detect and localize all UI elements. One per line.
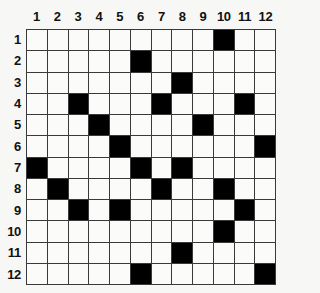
grid-cell-empty[interactable] <box>152 115 172 135</box>
grid-cell-empty[interactable] <box>89 158 109 178</box>
grid-cell-empty[interactable] <box>152 51 172 71</box>
grid-cell-filled[interactable] <box>214 179 234 199</box>
grid-cell-empty[interactable] <box>131 221 151 241</box>
grid-cell-empty[interactable] <box>131 94 151 114</box>
grid-cell-empty[interactable] <box>235 221 255 241</box>
grid-cell-empty[interactable] <box>89 136 109 156</box>
grid-cell-empty[interactable] <box>193 200 213 220</box>
grid-cell-empty[interactable] <box>172 30 192 50</box>
grid-cell-empty[interactable] <box>69 136 89 156</box>
grid-cell-empty[interactable] <box>214 264 234 284</box>
grid-cell-empty[interactable] <box>48 264 68 284</box>
grid-cell-empty[interactable] <box>172 51 192 71</box>
grid-cell-empty[interactable] <box>255 221 275 241</box>
grid-cell-empty[interactable] <box>110 179 130 199</box>
grid-cell-empty[interactable] <box>89 243 109 263</box>
grid-cell-empty[interactable] <box>172 115 192 135</box>
grid-cell-empty[interactable] <box>48 115 68 135</box>
grid-cell-empty[interactable] <box>69 51 89 71</box>
grid-cell-empty[interactable] <box>255 94 275 114</box>
grid-cell-empty[interactable] <box>48 221 68 241</box>
grid-cell-empty[interactable] <box>69 221 89 241</box>
grid-cell-empty[interactable] <box>27 221 47 241</box>
grid-cell-empty[interactable] <box>235 115 255 135</box>
grid-cell-empty[interactable] <box>214 51 234 71</box>
grid-cell-empty[interactable] <box>131 200 151 220</box>
grid-cell-filled[interactable] <box>131 264 151 284</box>
grid-cell-empty[interactable] <box>27 30 47 50</box>
grid-cell-empty[interactable] <box>48 51 68 71</box>
grid-cell-empty[interactable] <box>69 73 89 93</box>
grid-cell-empty[interactable] <box>110 94 130 114</box>
grid-cell-empty[interactable] <box>48 158 68 178</box>
grid-cell-empty[interactable] <box>152 200 172 220</box>
grid-cell-empty[interactable] <box>172 94 192 114</box>
grid-cell-empty[interactable] <box>48 200 68 220</box>
grid-cell-empty[interactable] <box>48 243 68 263</box>
grid-cell-empty[interactable] <box>193 30 213 50</box>
grid-cell-filled[interactable] <box>69 94 89 114</box>
grid-cell-empty[interactable] <box>193 94 213 114</box>
grid-cell-empty[interactable] <box>110 243 130 263</box>
grid-cell-empty[interactable] <box>214 73 234 93</box>
grid-cell-empty[interactable] <box>193 264 213 284</box>
grid-cell-filled[interactable] <box>172 243 192 263</box>
grid-cell-empty[interactable] <box>131 30 151 50</box>
grid-cell-filled[interactable] <box>255 136 275 156</box>
grid-cell-empty[interactable] <box>172 221 192 241</box>
grid-cell-filled[interactable] <box>214 221 234 241</box>
grid-cell-empty[interactable] <box>255 51 275 71</box>
grid-cell-filled[interactable] <box>235 94 255 114</box>
grid-cell-empty[interactable] <box>48 73 68 93</box>
grid-cell-empty[interactable] <box>27 264 47 284</box>
grid-cell-empty[interactable] <box>89 179 109 199</box>
grid-cell-empty[interactable] <box>235 179 255 199</box>
grid-cell-empty[interactable] <box>172 200 192 220</box>
grid-cell-filled[interactable] <box>131 158 151 178</box>
grid-cell-empty[interactable] <box>89 30 109 50</box>
grid-cell-empty[interactable] <box>89 264 109 284</box>
grid-cell-empty[interactable] <box>152 264 172 284</box>
grid-cell-empty[interactable] <box>255 115 275 135</box>
grid-cell-empty[interactable] <box>89 200 109 220</box>
grid-cell-empty[interactable] <box>27 243 47 263</box>
grid-cell-empty[interactable] <box>27 115 47 135</box>
grid-cell-empty[interactable] <box>69 30 89 50</box>
grid-cell-empty[interactable] <box>193 179 213 199</box>
grid-cell-empty[interactable] <box>152 136 172 156</box>
grid-cell-empty[interactable] <box>235 136 255 156</box>
grid-cell-empty[interactable] <box>193 136 213 156</box>
grid-cell-empty[interactable] <box>152 158 172 178</box>
grid-cell-empty[interactable] <box>255 30 275 50</box>
grid-cell-empty[interactable] <box>214 136 234 156</box>
grid-cell-empty[interactable] <box>193 158 213 178</box>
grid-cell-filled[interactable] <box>110 136 130 156</box>
grid-cell-empty[interactable] <box>235 73 255 93</box>
grid-cell-empty[interactable] <box>235 243 255 263</box>
grid-cell-empty[interactable] <box>255 158 275 178</box>
grid-cell-filled[interactable] <box>214 30 234 50</box>
grid-cell-filled[interactable] <box>152 179 172 199</box>
grid-cell-empty[interactable] <box>172 136 192 156</box>
grid-cell-empty[interactable] <box>69 115 89 135</box>
grid-cell-empty[interactable] <box>110 73 130 93</box>
grid-cell-filled[interactable] <box>172 73 192 93</box>
grid-cell-empty[interactable] <box>110 30 130 50</box>
grid-cell-empty[interactable] <box>172 179 192 199</box>
grid-cell-empty[interactable] <box>27 179 47 199</box>
grid-cell-empty[interactable] <box>172 264 192 284</box>
grid-cell-empty[interactable] <box>89 94 109 114</box>
grid-cell-empty[interactable] <box>131 73 151 93</box>
grid-cell-empty[interactable] <box>193 73 213 93</box>
grid-cell-empty[interactable] <box>152 30 172 50</box>
grid-cell-empty[interactable] <box>152 221 172 241</box>
grid-cell-filled[interactable] <box>255 264 275 284</box>
grid-cell-filled[interactable] <box>193 115 213 135</box>
grid-cell-empty[interactable] <box>131 179 151 199</box>
grid-cell-empty[interactable] <box>214 243 234 263</box>
grid-cell-empty[interactable] <box>214 158 234 178</box>
grid-cell-empty[interactable] <box>27 51 47 71</box>
grid-cell-filled[interactable] <box>172 158 192 178</box>
grid-cell-empty[interactable] <box>214 115 234 135</box>
grid-cell-empty[interactable] <box>152 73 172 93</box>
